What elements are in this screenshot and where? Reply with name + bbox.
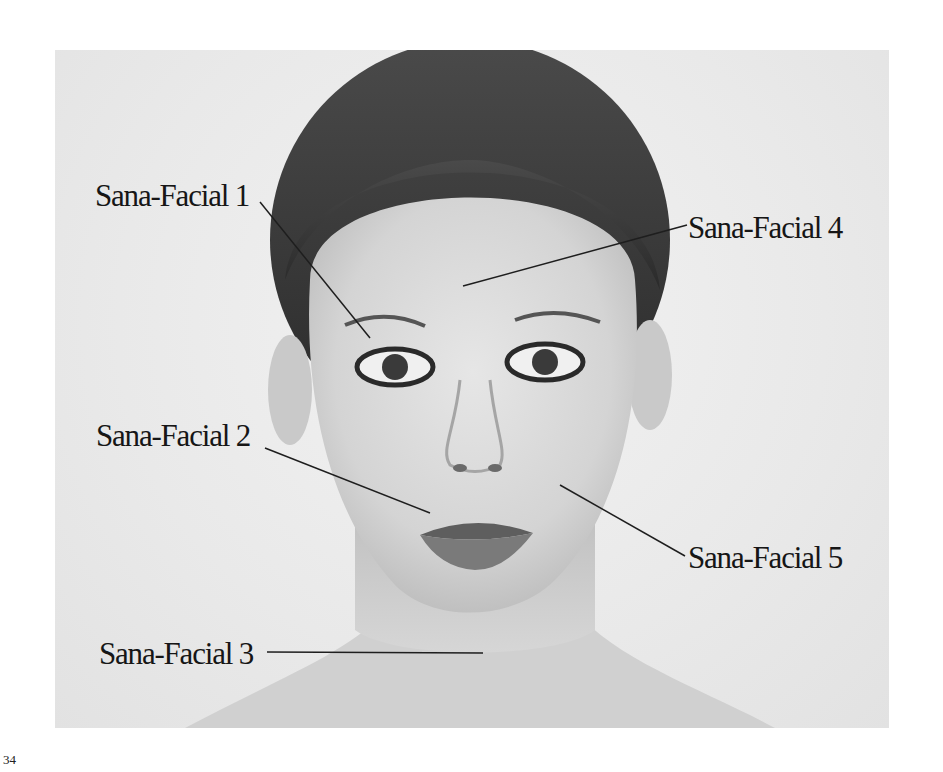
label-sana-facial-4: Sana-Facial 4 bbox=[688, 212, 842, 243]
page-number: 34 bbox=[3, 752, 16, 768]
label-sana-facial-5: Sana-Facial 5 bbox=[688, 542, 842, 573]
face-illustration bbox=[55, 50, 889, 728]
label-sana-facial-3: Sana-Facial 3 bbox=[99, 638, 253, 669]
label-sana-facial-2: Sana-Facial 2 bbox=[96, 420, 250, 451]
face-photograph bbox=[55, 50, 889, 728]
label-sana-facial-1: Sana-Facial 1 bbox=[95, 180, 249, 211]
